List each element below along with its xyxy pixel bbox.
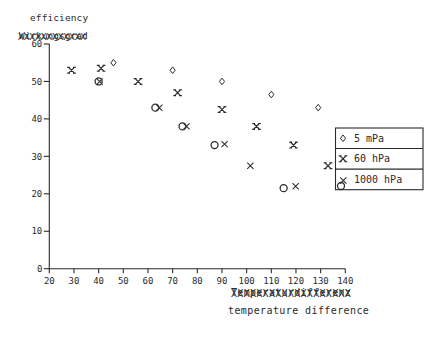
x-marker — [173, 90, 182, 96]
x-tick-label: 140 — [337, 276, 353, 286]
legend-label: 60 hPa — [354, 153, 390, 164]
y-axis-title: efficiency — [30, 12, 88, 23]
x-overlay-marker — [293, 183, 299, 189]
diamond-marker — [219, 78, 224, 85]
diamond-marker — [111, 59, 116, 66]
scatter-plot-page: efficiency Wirkungsgrad XXXXXXXXXXXX 010… — [0, 0, 444, 339]
legend-label: 5 mPa — [354, 133, 384, 144]
x-tick-label: 100 — [239, 276, 255, 286]
x-tick-label: 90 — [217, 276, 228, 286]
y-tick-label: 10 — [31, 226, 42, 236]
overstrike-top: Wirkungsgrad XXXXXXXXXXXX — [19, 30, 91, 43]
x-tick-label: 40 — [93, 276, 104, 286]
x-tick-label: 50 — [118, 276, 129, 286]
diamond-marker — [316, 104, 321, 111]
x-tick-label: 20 — [44, 276, 55, 286]
circle-marker — [95, 78, 102, 85]
y-tick-label: 0 — [37, 264, 42, 274]
circle-marker — [152, 104, 159, 111]
diamond-marker — [269, 91, 274, 98]
x-axis-ticks: 2030405060708090100110120130140 — [44, 269, 354, 287]
circle-marker — [280, 185, 287, 192]
x-tick-label: 130 — [313, 276, 329, 286]
x-overlay-marker — [156, 105, 162, 111]
x-axis-title: temperature difference — [228, 305, 369, 316]
overstrike-bottom: Temperaturdifferenz XXXXXXXXXXXXXXXXXXX — [231, 287, 353, 300]
series-1000-hpa — [95, 78, 299, 192]
x-marker — [252, 123, 261, 129]
series-60-hpa — [67, 65, 332, 168]
plot-canvas: 0102030405060203040506070809010011012013… — [0, 0, 444, 339]
x-tick-label: 30 — [69, 276, 80, 286]
x-overlay-marker — [221, 141, 227, 147]
y-axis-ticks: 0102030405060 — [31, 39, 49, 274]
x-marker — [97, 65, 106, 71]
x-overlay-marker — [247, 163, 253, 169]
series-5-mpa — [111, 59, 321, 111]
x-tick-label: 80 — [192, 276, 203, 286]
overstrike-bottom-x-overlay: XXXXXXXXXXXXXXXXXXX — [231, 288, 351, 299]
x-marker — [218, 107, 227, 113]
y-tick-label: 20 — [31, 189, 42, 199]
y-tick-label: 50 — [31, 77, 42, 87]
x-marker — [67, 67, 76, 73]
y-tick-label: 40 — [31, 114, 42, 124]
x-tick-label: 120 — [288, 276, 304, 286]
legend-label: 1000 hPa — [354, 174, 402, 185]
x-tick-label: 70 — [167, 276, 178, 286]
x-marker — [289, 142, 298, 148]
circle-marker — [179, 123, 186, 130]
diamond-marker — [170, 67, 175, 74]
circle-marker — [211, 142, 218, 149]
y-tick-label: 30 — [31, 152, 42, 162]
x-marker — [134, 79, 143, 85]
legend: 5 mPa60 hPa1000 hPa — [336, 128, 424, 190]
x-tick-label: 60 — [143, 276, 154, 286]
x-overlay-marker — [183, 123, 189, 129]
x-tick-label: 110 — [263, 276, 279, 286]
axes — [49, 44, 345, 269]
overstrike-top-x-overlay: XXXXXXXXXXXX — [18, 31, 86, 42]
x-marker — [324, 163, 333, 169]
